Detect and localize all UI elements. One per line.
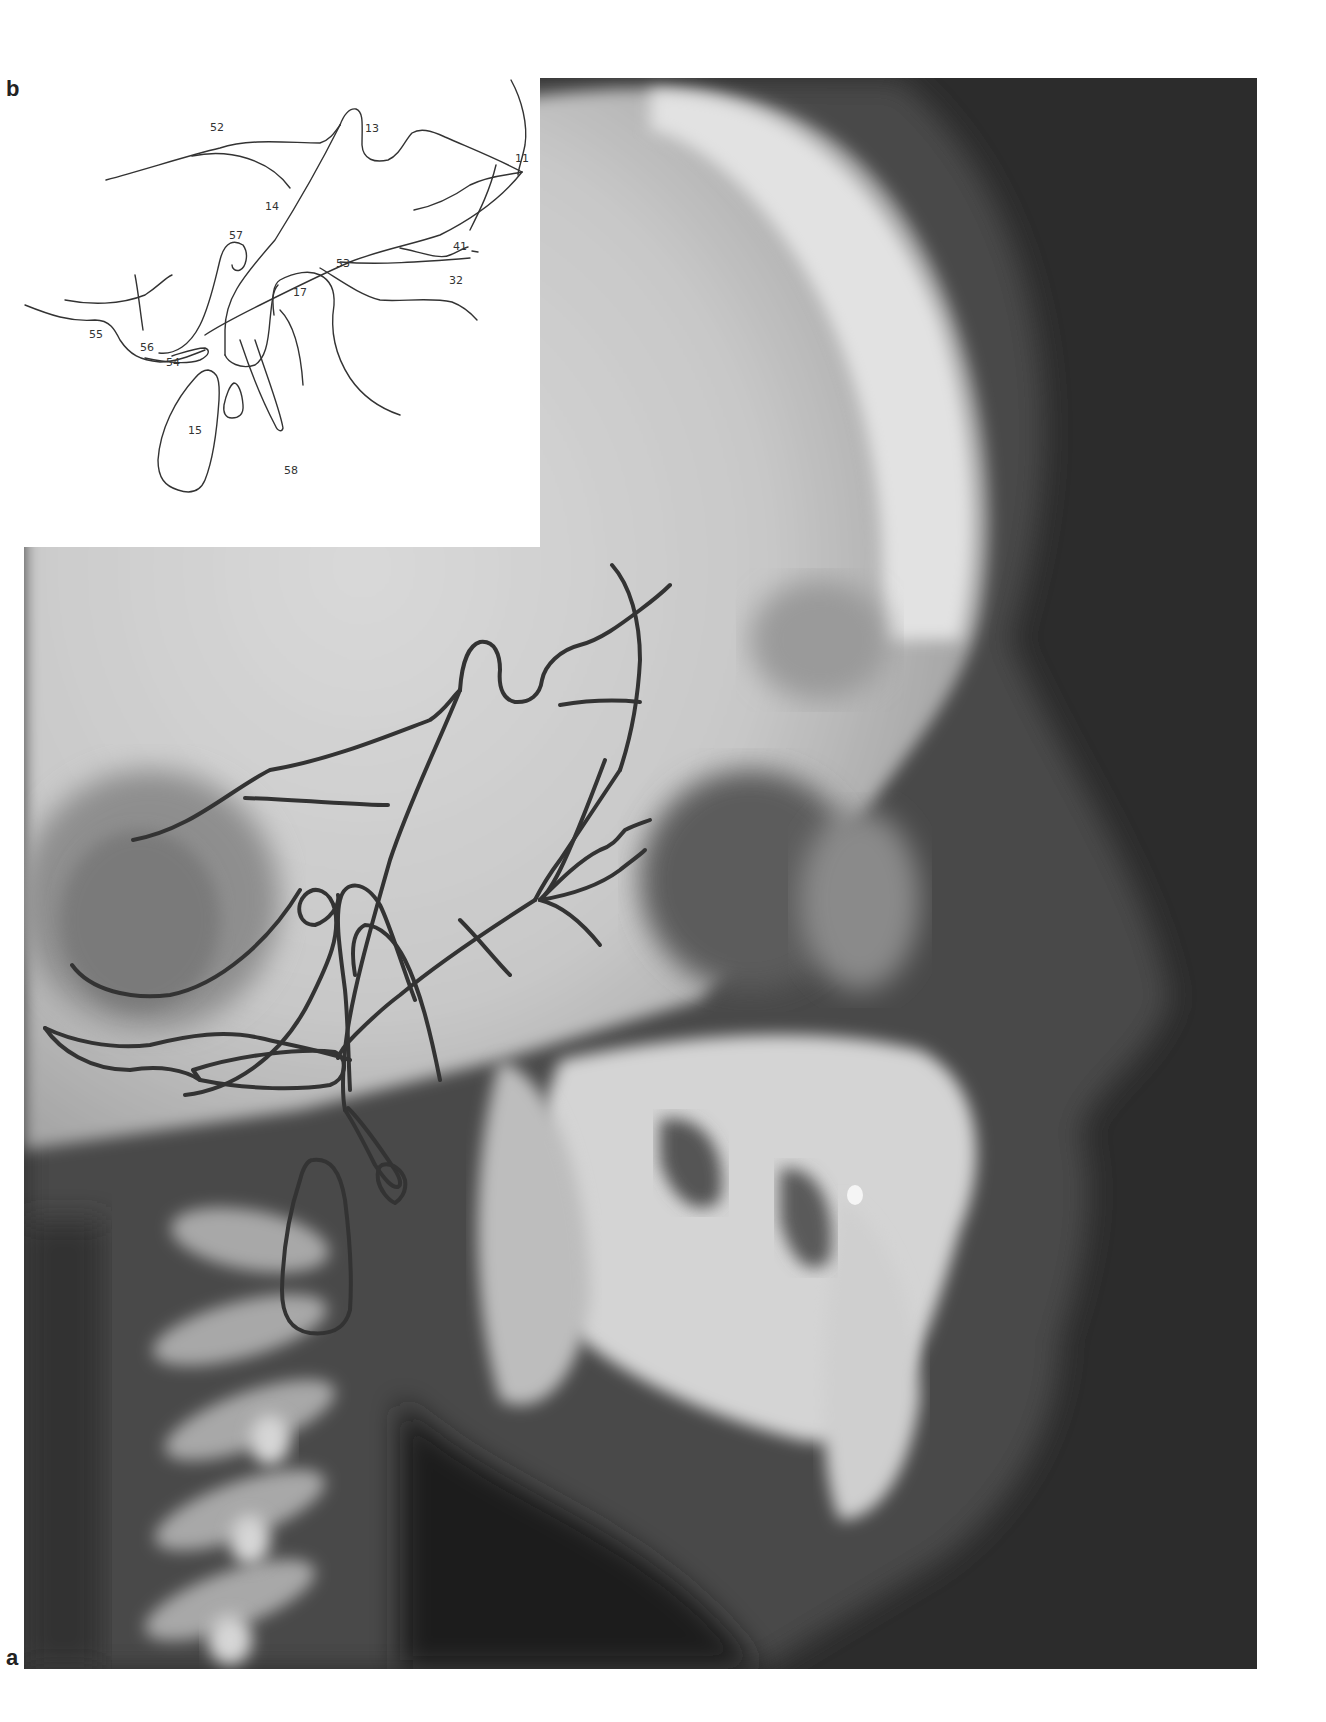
landmark-labels: 13 52 11 14 57 41 53 32 17 55 56 54 15 5…: [89, 121, 529, 477]
landmark-11: 11: [515, 152, 529, 165]
landmark-13: 13: [365, 122, 379, 135]
landmark-17: 17: [293, 286, 307, 299]
landmark-53: 53: [336, 257, 350, 270]
landmark-15: 15: [188, 424, 202, 437]
landmark-58: 58: [284, 464, 298, 477]
landmark-52: 52: [210, 121, 224, 134]
landmark-55: 55: [89, 328, 103, 341]
landmark-57: 57: [229, 229, 243, 242]
landmark-56: 56: [140, 341, 154, 354]
inset-tracing: 13 52 11 14 57 41 53 32 17 55 56 54 15 5…: [0, 60, 540, 547]
panel-label-a: a: [6, 1647, 18, 1669]
landmark-41: 41: [453, 240, 467, 253]
panel-label-b: b: [6, 78, 19, 100]
inset-diagram: 13 52 11 14 57 41 53 32 17 55 56 54 15 5…: [0, 60, 540, 547]
landmark-54: 54: [166, 356, 180, 369]
landmark-14: 14: [265, 200, 279, 213]
landmark-32: 32: [449, 274, 463, 287]
